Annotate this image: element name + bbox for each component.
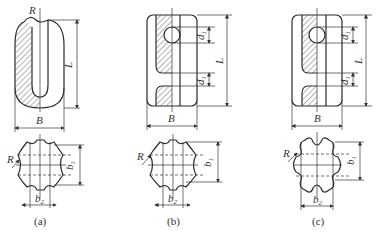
panel-b-top-view: d1 d1 L B [147, 8, 232, 130]
panel-c-top-view: d1 d1 L B [292, 8, 372, 130]
panel-b-section-view: b1 b2 R [136, 134, 222, 208]
dim-label-d1-upper: d1 [338, 31, 352, 40]
dim-label-d1-upper: d1 [194, 31, 208, 40]
dim-label-L: L [62, 62, 74, 69]
panel-a-section-view: b1 b2 R [6, 134, 84, 208]
panel-c: d1 d1 L B b1 b2 [282, 8, 372, 228]
dim-label-R: R [28, 4, 36, 16]
panel-a-top-view: L B R [15, 4, 80, 132]
engineering-figure: L B R b1 b2 R (a) [0, 0, 376, 234]
dim-label-b1: b1 [63, 161, 77, 170]
dim-label-b1: b1 [201, 158, 215, 167]
caption-a: (a) [34, 215, 47, 228]
dim-label-R-section: R [136, 150, 144, 162]
dim-label-B: B [314, 112, 321, 124]
dim-label-L: L [352, 58, 364, 65]
dim-label-R-section: R [6, 153, 14, 165]
dim-label-L: L [213, 58, 225, 65]
dim-label-b2: b2 [168, 192, 178, 206]
dim-label-b1: b1 [344, 156, 358, 165]
caption-b: (b) [167, 215, 180, 228]
dim-label-R-section: R [282, 147, 290, 159]
dim-label-b2: b2 [35, 192, 45, 206]
panel-c-section-view: b1 b2 R [282, 132, 364, 210]
panel-b: d1 d1 L B b1 b2 [136, 8, 232, 228]
panel-a: L B R b1 b2 R (a) [6, 4, 84, 228]
dim-label-b2: b2 [313, 193, 323, 207]
dim-label-B: B [36, 114, 43, 126]
dim-label-d1-lower: d1 [194, 76, 208, 85]
dim-label-B: B [168, 112, 175, 124]
caption-c: (c) [312, 215, 325, 228]
dim-label-d1-lower: d1 [338, 76, 352, 85]
